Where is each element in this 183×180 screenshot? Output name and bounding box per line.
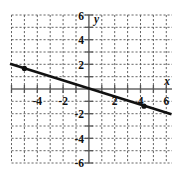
y-tick-label: 2	[78, 59, 84, 71]
x-tick-label: -4	[33, 95, 43, 107]
y-tick-label: 6	[78, 10, 84, 22]
y-axis-label: y	[92, 13, 100, 26]
x-axis-label: x	[163, 75, 170, 87]
y-tick-label: -2	[74, 108, 84, 120]
graph-screenshot: -4 -2 2 4 6 6 4 2 -2 -4 -6 y x	[0, 0, 183, 180]
x-tick-label: 4	[138, 95, 144, 107]
x-tick-label: 2	[112, 95, 118, 107]
data-point-marker	[22, 66, 27, 71]
y-tick-label: -4	[74, 133, 84, 145]
y-tick-label: -6	[74, 157, 84, 169]
y-tick-label: 4	[78, 34, 84, 46]
x-tick-label: 6	[163, 95, 169, 107]
x-tick-label: -2	[58, 95, 68, 107]
coordinate-plane-plot: -4 -2 2 4 6 6 4 2 -2 -4 -6 y x	[0, 0, 183, 180]
